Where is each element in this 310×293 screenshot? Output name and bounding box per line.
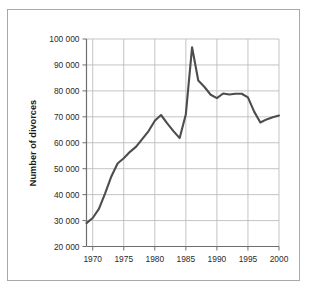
y-axis-title: Number of divorces: [28, 100, 38, 186]
y-axis-tick-label: 80 000: [54, 86, 80, 96]
chart-figure-frame: 20 00030 00040 00050 00060 00070 00080 0…: [7, 9, 300, 281]
y-axis-tick-label: 30 000: [54, 216, 80, 226]
y-axis-tick-label: 100 000: [49, 34, 80, 44]
chart-background: [8, 10, 299, 280]
x-axis-tick-label: 1970: [83, 254, 102, 264]
y-axis-tick-label: 70 000: [54, 112, 80, 122]
y-axis-tick-label: 40 000: [54, 190, 80, 200]
y-axis-tick-labels: 20 00030 00040 00050 00060 00070 00080 0…: [49, 34, 80, 252]
x-axis-tick-label: 1995: [239, 254, 258, 264]
x-axis-tick-label: 1975: [114, 254, 133, 264]
divorce-line-chart: 20 00030 00040 00050 00060 00070 00080 0…: [8, 10, 299, 280]
x-axis-tick-label: 1990: [208, 254, 227, 264]
y-axis-tick-label: 20 000: [54, 242, 80, 252]
x-axis-tick-label: 2000: [270, 254, 289, 264]
y-axis-tick-label: 60 000: [54, 138, 80, 148]
y-axis-tick-label: 90 000: [54, 60, 80, 70]
x-axis-tick-label: 1985: [177, 254, 196, 264]
y-axis-tick-label: 50 000: [54, 164, 80, 174]
x-axis-tick-label: 1980: [145, 254, 164, 264]
